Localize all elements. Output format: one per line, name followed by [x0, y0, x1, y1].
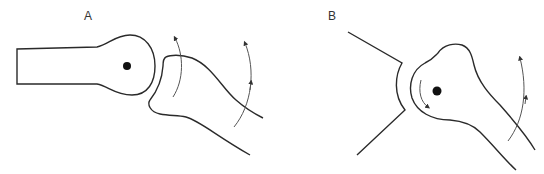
spin-arrow-b: [420, 80, 428, 107]
panel-a: [17, 35, 263, 155]
rotation-arrow-a-2: [234, 43, 251, 127]
bone-head-b-lower: [411, 63, 516, 170]
rotation-arrow-a-1: [173, 38, 182, 97]
distal-bone-a-top: [166, 55, 263, 118]
axis-dot-a: [123, 62, 131, 70]
distal-bone-a-bottom: [149, 100, 250, 155]
swing-arrow-b: [508, 58, 524, 141]
proximal-bone-a: [17, 35, 155, 95]
axis-dot-b: [433, 87, 442, 96]
rotation-arrow-a-2-mid: [250, 82, 251, 90]
swing-arrow-b-mid: [525, 97, 526, 104]
distal-bone-a-concave: [150, 57, 166, 100]
panel-b: [348, 32, 535, 170]
bone-head-b: [425, 44, 535, 150]
socket-b: [348, 32, 405, 155]
joint-diagram: [0, 0, 544, 174]
